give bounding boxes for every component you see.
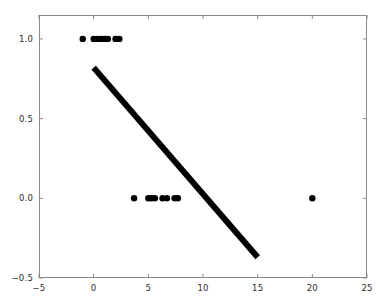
x-tick-label: 20 [307,283,318,293]
x-tick-label: 10 [197,283,208,293]
axes-frame [39,15,367,278]
x-tick-label: 15 [252,283,263,293]
y-tick-label: 0.5 [2,114,33,124]
y-tick-label: −0.5 [2,273,33,283]
scan-margin-top [0,0,386,10]
x-tick-label: 0 [91,283,97,293]
figure-canvas: −0.50.00.51.0 −50510152025 [0,0,386,308]
x-tick-label: 25 [361,283,372,293]
y-tick-label: 1.0 [2,34,33,44]
x-tick-label: 5 [146,283,152,293]
x-tick-label: −5 [33,283,46,293]
scan-margin-bottom [0,298,386,308]
y-tick-label: 0.0 [2,193,33,203]
